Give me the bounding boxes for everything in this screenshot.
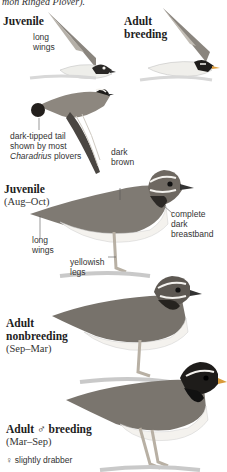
genus-name: Charadrius bbox=[10, 151, 52, 161]
top-caption: mon Ringed Plover). bbox=[2, 0, 85, 7]
dark-brown-label-line1: dark bbox=[111, 147, 128, 157]
juvenile-standing-bird bbox=[30, 170, 194, 276]
adult-male-breeding-dates: (Mar–Sep) bbox=[6, 436, 52, 448]
yellowish-legs-line2: legs bbox=[70, 267, 86, 277]
breastband-label-line3: breastband bbox=[171, 229, 214, 239]
tail-note-line3: Charadrius plovers bbox=[10, 151, 81, 161]
adult-nonbreeding-bird bbox=[52, 276, 202, 382]
long-wings-juv-line1: long bbox=[32, 235, 48, 245]
tail-note-rest: plovers bbox=[52, 151, 82, 161]
breastband-label-line2: dark bbox=[171, 219, 188, 229]
dark-brown-label-line2: brown bbox=[111, 157, 134, 167]
juvenile-flight-title: Juvenile bbox=[3, 15, 44, 28]
tail-note-line2: shown by most bbox=[10, 141, 67, 151]
long-wings-label-line2: wings bbox=[33, 42, 55, 52]
adult-breeding-flight-title-line2: breeding bbox=[124, 28, 167, 41]
adult-nonbreeding-title-line2: nonbreeding bbox=[6, 330, 68, 343]
adult-nonbreeding-dates: (Sep–Mar) bbox=[6, 343, 52, 355]
female-note: ♀ slightly drabber bbox=[6, 455, 72, 465]
long-wings-label-line1: long bbox=[33, 32, 49, 42]
tail-note-line1: dark-tipped tail bbox=[10, 131, 66, 141]
yellowish-legs-line1: yellowish bbox=[70, 257, 105, 267]
adult-nonbreeding-title-line1: Adult bbox=[6, 317, 34, 330]
long-wings-juv-line2: wings bbox=[32, 245, 54, 255]
adult-male-breeding-title: Adult ♂ breeding bbox=[6, 423, 92, 436]
juvenile-title: Juvenile bbox=[4, 183, 45, 196]
adult-breeding-flight-title-line1: Adult bbox=[124, 15, 152, 28]
juvenile-dates: (Aug–Oct) bbox=[4, 196, 50, 208]
breastband-label-line1: complete bbox=[171, 209, 206, 219]
